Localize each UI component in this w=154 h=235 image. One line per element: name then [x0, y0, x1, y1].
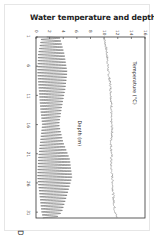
- top-tick-label: 8: [88, 30, 93, 33]
- chart-plot: 0246810121416161116212631Temperature (°C…: [0, 0, 154, 235]
- left-tick-label: 31: [26, 210, 31, 216]
- depth-series: [37, 37, 72, 218]
- left-tick-label: 6: [26, 64, 31, 67]
- left-tick-label: 26: [26, 181, 31, 187]
- top-tick-label: 2: [47, 30, 52, 33]
- left-tick-label: 21: [26, 152, 31, 158]
- top-tick-label: 6: [74, 30, 79, 33]
- top-tick-label: 16: [143, 30, 148, 36]
- top-tick-label: 10: [102, 30, 107, 36]
- top-tick-label: 4: [61, 30, 66, 33]
- x-axis-label: Days in May: [16, 230, 25, 235]
- top-tick-label: 14: [129, 30, 134, 36]
- depth-annotation: Depth (m): [76, 120, 83, 146]
- top-tick-label: 0: [34, 30, 39, 33]
- temperature-annotation: Temperature (°C): [131, 61, 138, 105]
- left-tick-label: 1: [26, 35, 31, 38]
- plot-frame: [36, 37, 145, 218]
- left-tick-label: 11: [26, 93, 31, 99]
- temperature-series: [103, 37, 117, 218]
- top-tick-label: 12: [115, 30, 120, 36]
- left-tick-label: 16: [26, 123, 31, 129]
